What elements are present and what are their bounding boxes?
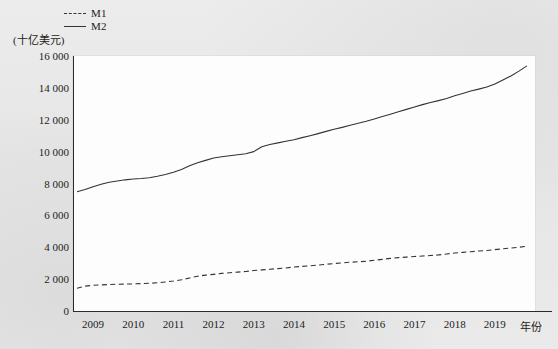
- series-m1-group: [77, 246, 527, 288]
- x-tick-label-2012: 2012: [203, 318, 225, 330]
- y-tick-label-14000: 14 000: [39, 82, 69, 94]
- y-tick-label-6000: 6 000: [44, 209, 69, 221]
- series-line-m1: [77, 246, 527, 288]
- chart-legend: M1 M2: [64, 7, 107, 33]
- y-tick-label-2000: 2 000: [44, 273, 69, 285]
- x-axis-title: 年份: [520, 318, 542, 334]
- y-tick-label-12000: 12 000: [39, 114, 69, 126]
- x-tick-label-2015: 2015: [323, 318, 345, 330]
- series-m2-group: [77, 66, 527, 192]
- plot-svg: [73, 56, 535, 311]
- y-tick-label-0: 0: [64, 305, 70, 317]
- legend-item-m1: M1: [64, 7, 107, 20]
- y-tick-label-10000: 10 000: [39, 146, 69, 158]
- x-tick-label-2018: 2018: [444, 318, 466, 330]
- x-tick-label-2010: 2010: [122, 318, 144, 330]
- legend-label-m1: M1: [91, 7, 107, 20]
- legend-item-m2: M2: [64, 20, 107, 33]
- x-tick-label-2017: 2017: [403, 318, 425, 330]
- y-tick-label-16000: 16 000: [39, 50, 69, 62]
- x-tick-label-2014: 2014: [283, 318, 305, 330]
- y-tick-label-4000: 4 000: [44, 241, 69, 253]
- x-tick-label-2019: 2019: [484, 318, 506, 330]
- x-tick-label-2013: 2013: [243, 318, 265, 330]
- legend-label-m2: M2: [91, 20, 107, 33]
- x-tick-label-2009: 2009: [82, 318, 104, 330]
- y-tick-label-8000: 8 000: [44, 178, 69, 190]
- x-tick-label-2011: 2011: [163, 318, 185, 330]
- series-line-m2: [77, 66, 527, 192]
- money-supply-line-chart: M1 M2 (十亿美元) 02 0004 0006 0008 00010 000…: [0, 0, 558, 349]
- x-tick-label-2016: 2016: [363, 318, 385, 330]
- y-axis-tick-labels: 02 0004 0006 0008 00010 00012 00014 0001…: [0, 0, 69, 349]
- plot-area: [73, 56, 535, 311]
